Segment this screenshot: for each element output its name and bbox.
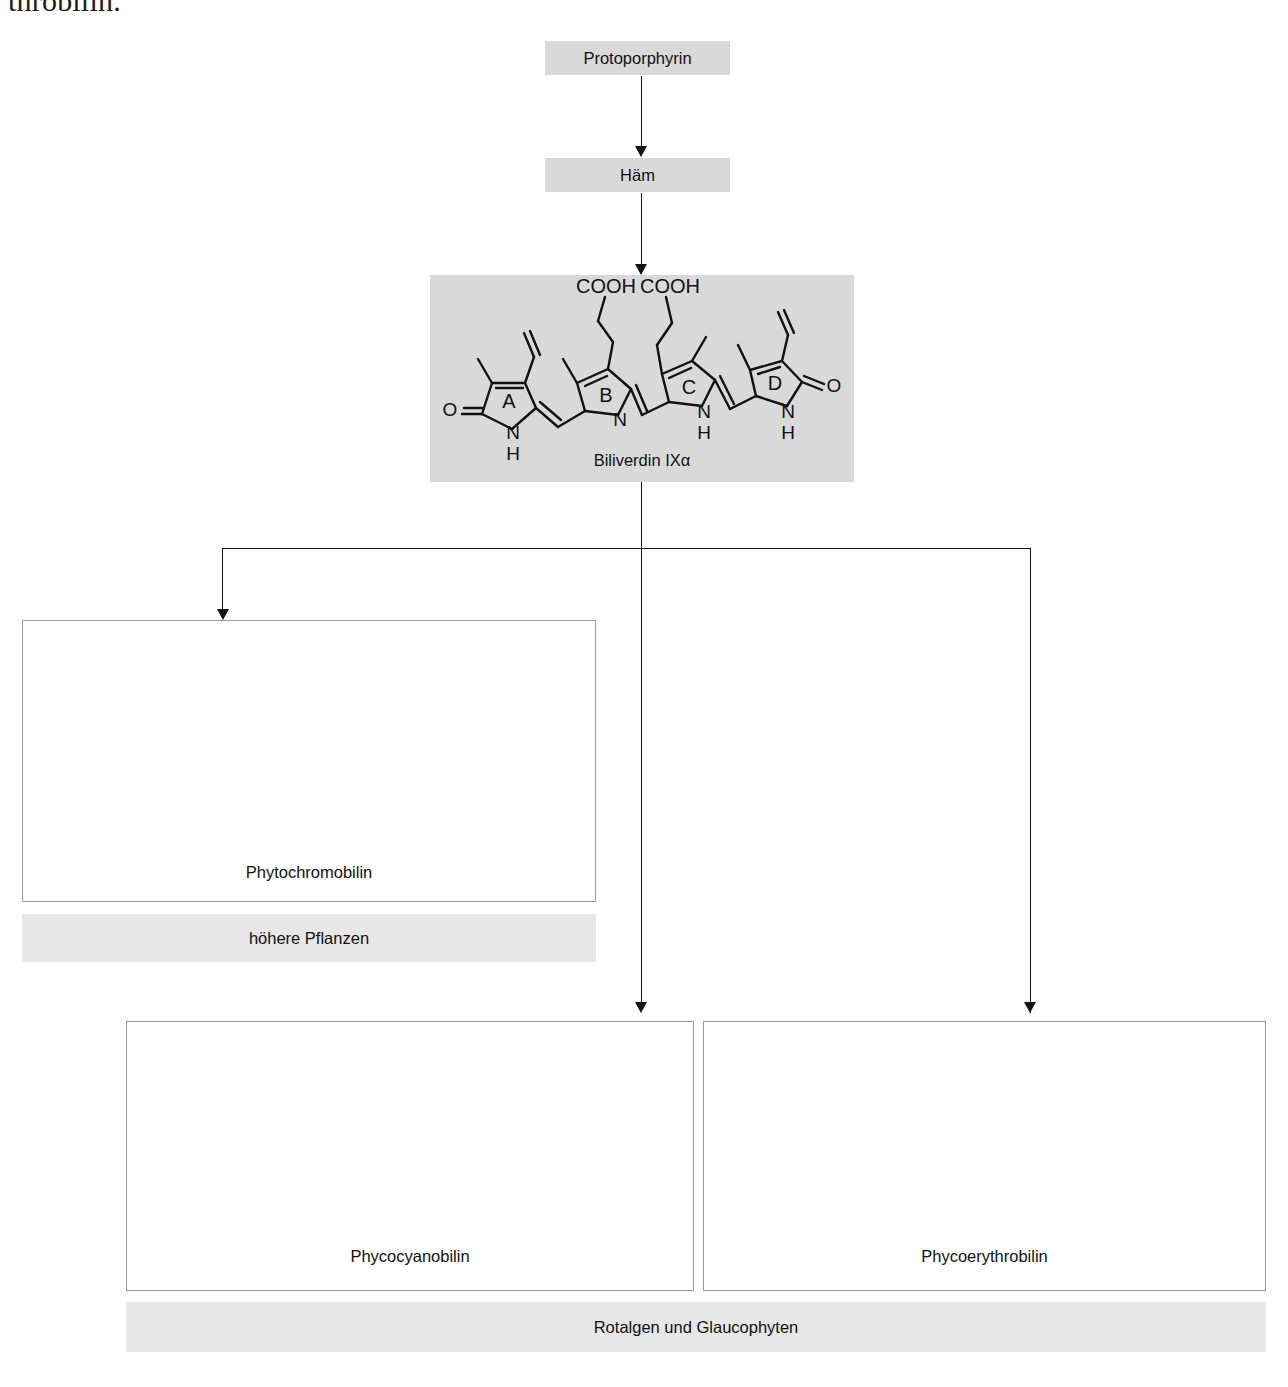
- branch-drop-right: [1030, 548, 1031, 1013]
- structure-carboxyl-right: COOH: [640, 275, 700, 297]
- node-haem: Häm: [545, 158, 730, 192]
- band-red-algae: Rotalgen und Glaucophyten: [126, 1302, 1266, 1352]
- band-higher-plants: höhere Pflanzen: [22, 914, 596, 962]
- structure-hydrogen-d: H: [781, 422, 795, 443]
- structure-ring-c: C: [682, 376, 696, 398]
- structure-nitrogen-d: N: [781, 401, 795, 422]
- arrow-protoporphyrin-haem-line: [641, 76, 642, 150]
- node-protoporphyrin-label: Protoporphyrin: [583, 49, 691, 68]
- node-phytochromobilin: Phytochromobilin: [22, 620, 596, 902]
- arrow-haem-biliverdin-head: [635, 264, 647, 275]
- structure-hydrogen-c: H: [697, 422, 711, 443]
- structure-ring-a: A: [502, 390, 516, 412]
- node-biliverdin-label: Biliverdin IXα: [430, 451, 854, 470]
- clipped-running-text: throbilin.: [8, 0, 121, 18]
- node-protoporphyrin: Protoporphyrin: [545, 41, 730, 75]
- structure-nitrogen-b: N: [613, 409, 627, 430]
- node-phycocyanobilin-label: Phycocyanobilin: [127, 1247, 693, 1266]
- arrow-protoporphyrin-haem-head: [635, 146, 647, 157]
- node-phycocyanobilin: Phycocyanobilin: [126, 1021, 694, 1291]
- structure-oxygen-left: O: [443, 399, 458, 420]
- node-phycoerythrobilin: Phycoerythrobilin: [703, 1021, 1266, 1291]
- arrow-head-phycoerythrobilin: [1024, 1002, 1036, 1013]
- structure-nitrogen-c: N: [697, 401, 711, 422]
- diagram-page: throbilin. Protoporphyrin Häm: [0, 0, 1288, 1387]
- node-haem-label: Häm: [620, 166, 655, 185]
- node-biliverdin-panel: O O N H N N H N H A B C D COOH COOH Bili…: [430, 275, 854, 482]
- band-red-algae-label: Rotalgen und Glaucophyten: [594, 1318, 799, 1337]
- branch-drop-left: [222, 548, 223, 613]
- structure-nitrogen-a: N: [506, 422, 520, 443]
- branch-bus-horizontal: [222, 548, 1031, 549]
- arrow-haem-biliverdin-line: [641, 193, 642, 269]
- structure-ring-b: B: [599, 384, 612, 406]
- band-higher-plants-label: höhere Pflanzen: [249, 929, 369, 948]
- arrow-head-phytochromobilin: [217, 609, 229, 620]
- node-phycoerythrobilin-label: Phycoerythrobilin: [704, 1247, 1265, 1266]
- arrow-head-phycocyanobilin: [635, 1002, 647, 1013]
- branch-trunk-center: [641, 482, 642, 1010]
- node-phytochromobilin-label: Phytochromobilin: [23, 863, 595, 882]
- structure-ring-d: D: [768, 372, 782, 394]
- structure-carboxyl-left: COOH: [576, 275, 636, 297]
- structure-oxygen-right: O: [827, 375, 842, 396]
